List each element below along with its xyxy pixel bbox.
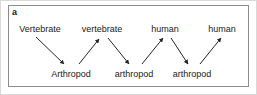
arrow-layer — [0, 0, 257, 95]
node-bottom-arthropod-3: arthropod — [173, 69, 212, 80]
node-top-vertebrate-1: Vertebrate — [19, 24, 61, 35]
arrow-arthropod-to-vertebrate-1 — [79, 39, 99, 64]
arrow-human-to-arthropod-1 — [171, 38, 188, 64]
arrow-arthropod-to-human-2 — [200, 38, 221, 64]
node-top-human-1: human — [151, 24, 179, 35]
arrow-vertebrate-to-arthropod-1 — [36, 37, 64, 64]
node-top-vertebrate-2: vertebrate — [82, 24, 123, 35]
arrow-arthropod-to-human-1 — [142, 38, 163, 64]
node-top-human-2: human — [208, 24, 236, 35]
arrow-vertebrate-to-arthropod-2 — [108, 38, 129, 64]
figure-panel-a: a Vertebrate vertebrate human human Arth… — [0, 0, 257, 95]
node-bottom-arthropod-2: arthropod — [115, 69, 154, 80]
node-bottom-arthropod-1: Arthropod — [51, 69, 91, 80]
